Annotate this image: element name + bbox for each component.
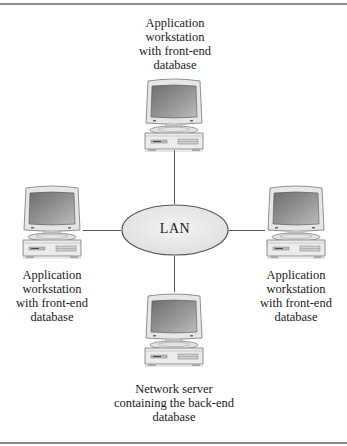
wire-top-to-lan [174,150,175,204]
node-bottom-label: Network server containing the back-end d… [94,382,254,424]
workstation-computer-icon [142,77,206,155]
bottom-border-rule [0,442,347,444]
wire-bottom-to-lan [174,256,175,292]
wire-left-to-lan [83,230,121,231]
wire-right-to-lan [229,230,265,231]
network-server-computer-icon [142,292,206,370]
node-left-label: Application workstation with front-end d… [0,268,112,324]
node-right-label: Application workstation with front-end d… [236,268,347,324]
workstation-computer-icon [20,184,84,262]
workstation-computer-icon [264,184,328,262]
top-border-rule [0,3,347,5]
node-top-label: Application workstation with front-end d… [110,16,240,72]
lan-label: LAN [120,221,230,237]
